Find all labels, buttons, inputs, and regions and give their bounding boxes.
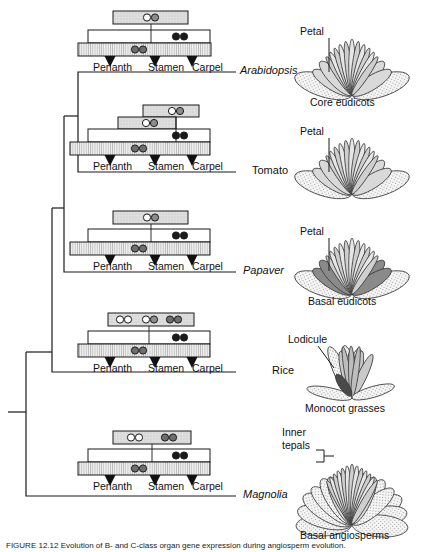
expression-bar-c-rice (78, 344, 210, 357)
callout-inner-tepals-line2: tepals (282, 440, 310, 451)
figure-canvas: Perianth Stamen Carpel Perianth Stamen C… (0, 0, 424, 552)
callout-petal-tomato: Petal (300, 126, 324, 137)
expression-bar-c-tomato (70, 142, 210, 155)
organ-label-stamen: Stamen (148, 363, 184, 374)
diagram-svg (0, 0, 424, 552)
organ-label-perianth: Perianth (93, 62, 132, 73)
expression-bar-c-arabidopsis (78, 43, 211, 56)
expression-bar-b-papaver (88, 229, 210, 242)
expression-bar-b-magnolia (88, 449, 210, 462)
organ-label-perianth: Perianth (93, 261, 132, 272)
organ-label-stamen: Stamen (148, 261, 184, 272)
expression-bar-a2-tomato (143, 105, 199, 117)
expression-bar-c-papaver (70, 242, 210, 255)
clade-label-monocot-grasses: Monocot grasses (305, 403, 385, 414)
expression-bar-c-magnolia (78, 462, 210, 475)
callout-inner-tepals-line1: Inner (282, 427, 306, 438)
flower-magnolia (295, 464, 409, 539)
organ-label-perianth: Perianth (93, 161, 132, 172)
expression-bars (70, 11, 211, 475)
clade-label-core-eudicots: Core eudicots (310, 97, 375, 108)
taxon-label-papaver: Papaver (243, 265, 284, 276)
organ-label-perianth: Perianth (93, 363, 132, 374)
organ-label-carpel: Carpel (192, 62, 223, 73)
figure-caption: FIGURE 12.12 Evolution of B- and C-class… (6, 541, 420, 551)
callout-bracket-magnolia (316, 450, 324, 462)
taxon-label-rice: Rice (272, 365, 294, 376)
organ-label-stamen: Stamen (148, 161, 184, 172)
expression-bar-a-magnolia (113, 431, 191, 444)
expression-bar-b-tomato (88, 129, 210, 142)
organ-label-carpel: Carpel (192, 363, 223, 374)
flower-diagrams (292, 39, 413, 539)
callout-lodicule-rice: Lodicule (288, 334, 327, 345)
expression-bar-a-tomato (118, 117, 176, 129)
callout-petal-papaver: Petal (300, 226, 324, 237)
organ-label-stamen: Stamen (148, 62, 184, 73)
organ-label-perianth: Perianth (93, 481, 132, 492)
organ-label-carpel: Carpel (192, 161, 223, 172)
expression-bar-a-rice (108, 313, 194, 326)
expression-bar-b-arabidopsis (88, 30, 210, 43)
clade-label-basal-angiosperms: Basal angiosperms (300, 530, 389, 541)
organ-label-carpel: Carpel (192, 261, 223, 272)
callout-petal-arabidopsis: Petal (300, 26, 324, 37)
expression-bar-a-arabidopsis (113, 11, 188, 24)
organ-label-stamen: Stamen (148, 481, 184, 492)
taxon-label-arabidopsis: Arabidopsis (240, 65, 297, 76)
flower-tomato (292, 138, 413, 204)
clade-label-basal-eudicots: Basal eudicots (308, 296, 376, 307)
expression-bar-a-papaver (113, 211, 188, 224)
taxon-label-magnolia: Magnolia (243, 489, 288, 500)
flower-rice (306, 344, 396, 403)
organ-label-carpel: Carpel (192, 481, 223, 492)
taxon-label-tomato: Tomato (252, 165, 288, 176)
